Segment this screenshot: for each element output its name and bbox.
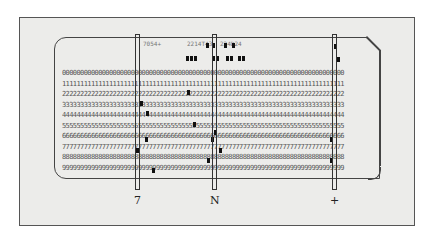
hole: [230, 56, 233, 61]
row-6: 6666666666666666666666666666666666666666…: [62, 131, 372, 142]
row-4: 4444444444444444444444444444444444444444…: [62, 110, 372, 121]
hole: [232, 43, 235, 48]
hole: [146, 111, 149, 116]
row-1: 1111111111111111111111111111111111111111…: [62, 79, 372, 90]
hole: [186, 56, 189, 61]
hole: [224, 43, 227, 48]
highlight-column-plus: [332, 34, 337, 190]
row-0: 0000000000000000000000000000000000000000…: [62, 68, 372, 79]
highlight-column-N: [212, 34, 217, 190]
hole: [145, 137, 148, 142]
hole: [226, 56, 229, 61]
row-7: 7777777777777777777777777777777777777777…: [62, 142, 372, 153]
digit-rows: 0000000000000000000000000000000000000000…: [62, 68, 372, 173]
row-8: 8888888888888888888888888888888888888888…: [62, 152, 372, 163]
highlight-column-7: [135, 34, 140, 190]
hole: [206, 43, 209, 48]
hole: [152, 168, 155, 173]
hole: [242, 56, 245, 61]
hole: [194, 56, 197, 61]
card-corner-cut: [367, 36, 381, 50]
hole: [187, 90, 190, 95]
column-label-N: N: [210, 194, 220, 207]
column-label-7: 7: [134, 194, 141, 207]
hole: [238, 56, 241, 61]
row-9: 9999999999999999999999999999999999999999…: [62, 163, 372, 174]
row-2: 2222222222222222222222222222222222222222…: [62, 89, 372, 100]
column-label-plus: +: [330, 194, 339, 207]
printed-text-1: 7054+: [143, 40, 161, 47]
hole: [190, 56, 193, 61]
row-3: 3333333333333333333333333333333333333333…: [62, 100, 372, 111]
hole: [193, 122, 196, 127]
hole: [337, 57, 340, 62]
hole: [140, 101, 143, 106]
hole: [219, 148, 222, 153]
hole: [207, 158, 210, 163]
row-5: 5555555555555555555555555555555555555555…: [62, 121, 372, 132]
